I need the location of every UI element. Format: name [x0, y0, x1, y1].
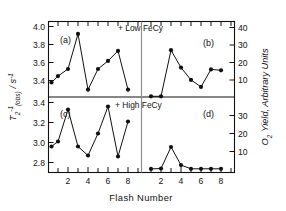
ytick-label-b-2: 30 — [238, 40, 248, 50]
xtick-label-c-3: 8 — [126, 176, 131, 186]
ylabel-right-sub: 2 — [266, 134, 273, 139]
panel-a-point — [116, 49, 120, 53]
panel-c-point — [116, 154, 120, 158]
ytick-label-c-3: 2.8 — [33, 158, 45, 168]
xtick-label-c-1: 4 — [86, 176, 91, 186]
ylabel-left-unit: / s — [8, 78, 18, 89]
panel-b-point — [199, 85, 203, 89]
panel-b-point — [209, 67, 213, 71]
panel-label-c: (c) — [60, 109, 71, 119]
ytick-label-c-1: 3.2 — [33, 118, 45, 128]
annotation-low-fecy: + Low FeCy — [118, 23, 164, 33]
ylabel-right-main: O — [260, 138, 270, 145]
y-axis-title-right: O2Yield, Arbitrary Units — [260, 48, 273, 145]
ylabel-left-sub: 2 — [14, 111, 21, 116]
panel-c-xaxis: 2 4 6 8 — [58, 167, 138, 186]
ylabel-left-paren: (obs) — [14, 91, 22, 106]
panel-c-point — [76, 144, 80, 148]
panel-d-point — [209, 167, 213, 171]
panel-label-d: (d) — [203, 109, 214, 119]
xtick-label-c-2: 6 — [106, 176, 111, 186]
ytick-label-d-0: 10 — [238, 147, 248, 157]
xtick-label-d-3: 8 — [219, 176, 224, 186]
panel-a-point — [76, 32, 80, 36]
x-axis-title: Flash Number — [109, 192, 173, 203]
panel-b-point — [189, 78, 193, 82]
panel-a-yaxis: 4.0 3.8 3.6 3.4 — [33, 22, 53, 86]
panel-d-point — [189, 167, 193, 171]
panel-b-point — [149, 94, 153, 98]
ylabel-left-sup: -1 — [7, 106, 14, 112]
panel-d-point — [159, 166, 163, 170]
panel-a-point — [96, 67, 100, 71]
panel-b-point — [179, 66, 183, 70]
panel-b-point — [169, 48, 173, 52]
svg-text:O2Yield, Arbitrary Units: O2Yield, Arbitrary Units — [260, 48, 273, 145]
ytick-label-a-0: 4.0 — [33, 22, 45, 32]
ytick-label-d-2: 30 — [238, 111, 248, 121]
panel-a-point — [86, 88, 90, 92]
ytick-label-d-1: 20 — [238, 129, 248, 139]
chart-svg: 4.0 3.8 3.6 3.4 3.4 3.2 3.0 2.8 40 30 20… — [0, 0, 286, 211]
panel-a-point — [106, 59, 110, 63]
panel-c-point — [106, 104, 110, 108]
xtick-label-d-2: 6 — [199, 176, 204, 186]
panel-a-point — [56, 74, 60, 78]
xtick-label-d-0: 2 — [159, 176, 164, 186]
ytick-label-b-1: 20 — [238, 58, 248, 68]
ytick-label-a-3: 3.4 — [33, 76, 45, 86]
panel-d-line — [151, 147, 221, 169]
panel-c-yaxis: 3.4 3.2 3.0 2.8 — [33, 98, 53, 168]
annotation-high-fecy: + High FeCy — [115, 100, 163, 110]
ytick-label-b-3: 40 — [238, 23, 248, 33]
panel-d-point — [219, 167, 223, 171]
panel-a-point — [49, 80, 53, 84]
ytick-label-b-0: 10 — [238, 75, 248, 85]
panel-c-point — [126, 119, 130, 123]
ylabel-right-rest: Yield, Arbitrary Units — [260, 48, 270, 132]
panel-a-point — [66, 67, 70, 71]
panel-c-point — [56, 139, 60, 143]
panel-b-yaxis: 40 30 20 10 — [230, 23, 248, 85]
panel-d-point — [179, 163, 183, 167]
panel-a-point — [126, 88, 130, 92]
panel-c-point — [49, 144, 53, 148]
ytick-label-a-1: 3.8 — [33, 40, 45, 50]
xtick-label-c-0: 2 — [66, 176, 71, 186]
ytick-label-c-0: 3.4 — [33, 98, 45, 108]
panel-b-point — [159, 94, 163, 98]
svg-text:T2-1(obs)/ s-1: T2-1(obs)/ s-1 — [7, 73, 22, 121]
ylabel-left-unit-sup: -1 — [7, 73, 14, 79]
panel-d-point — [169, 145, 173, 149]
panel-b-point — [219, 68, 223, 72]
panel-c-point — [86, 153, 90, 157]
panel-c-point — [96, 131, 100, 135]
panel-b-series — [149, 48, 223, 98]
ytick-label-c-2: 3.0 — [33, 138, 45, 148]
panel-d-point — [149, 167, 153, 171]
panel-d-yaxis: 30 20 10 — [230, 111, 248, 157]
y-axis-title-left: T2-1(obs)/ s-1 — [7, 73, 22, 121]
panel-b-line — [151, 50, 221, 96]
panel-label-a: (a) — [60, 35, 71, 45]
xtick-label-d-1: 4 — [179, 176, 184, 186]
panel-label-b: (b) — [203, 38, 214, 48]
ytick-label-a-2: 3.6 — [33, 58, 45, 68]
figure-container: 4.0 3.8 3.6 3.4 3.4 3.2 3.0 2.8 40 30 20… — [0, 0, 286, 211]
panel-d-point — [199, 167, 203, 171]
panel-d-series — [149, 145, 223, 171]
